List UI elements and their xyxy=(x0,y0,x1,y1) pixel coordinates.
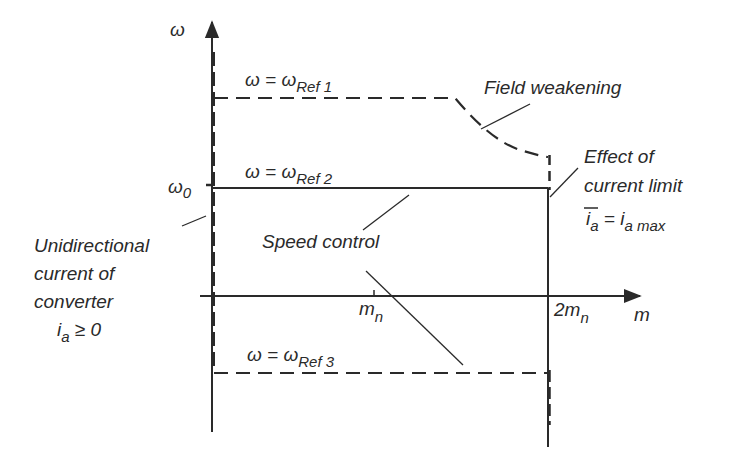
torque-speed-diagram: ω m ω0 mn 2mn ω = ωRef 1 ω = ωRef 2 ω = … xyxy=(0,0,746,459)
field-weakening-label: Field weakening xyxy=(484,77,622,98)
speed-control-leader-1 xyxy=(363,195,409,230)
ref1-line xyxy=(214,98,548,157)
omega0-label: ω0 xyxy=(168,176,192,201)
current-limit-leader xyxy=(550,168,578,197)
2mn-label: 2mn xyxy=(553,299,589,326)
unidirectional-label-1: Unidirectional xyxy=(34,235,150,256)
unidirectional-label-2: current of xyxy=(34,263,116,284)
unidirectional-label-3: converter xyxy=(34,291,114,312)
unidirectional-leader xyxy=(182,216,206,226)
current-limit-label-1: Effect of xyxy=(584,146,655,167)
x-axis-label: m xyxy=(634,304,650,325)
speed-control-label: Speed control xyxy=(262,231,380,252)
y-axis-label: ω xyxy=(170,19,185,40)
mn-label: mn xyxy=(359,298,383,325)
ref1-label: ω = ωRef 1 xyxy=(245,69,332,95)
current-limit-eq: ia = ia max xyxy=(586,208,666,234)
diagram-canvas: ω m ω0 mn 2mn ω = ωRef 1 ω = ωRef 2 ω = … xyxy=(0,0,746,459)
field-weakening-leader xyxy=(481,104,530,129)
ref3-label: ω = ωRef 3 xyxy=(247,344,335,370)
unidirectional-eq: ia ≥ 0 xyxy=(57,319,102,345)
current-limit-label-2: current limit xyxy=(584,175,683,196)
ref2-label: ω = ωRef 2 xyxy=(245,161,333,187)
